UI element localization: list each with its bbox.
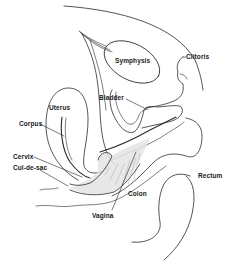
vaginal-shading	[70, 138, 150, 194]
perineum-skin	[40, 188, 58, 190]
leader-corpus	[40, 124, 64, 136]
label-colon: Colon	[128, 191, 147, 198]
label-cervix: Cervix	[13, 154, 33, 161]
label-symphysis: Symphysis	[115, 58, 150, 65]
ligament-fan	[79, 31, 112, 52]
clitoris-outline	[146, 57, 183, 108]
leader-cul-de-sac	[40, 170, 68, 186]
clitoris-detail	[180, 74, 187, 79]
diagram-drawing	[0, 0, 243, 266]
label-vagina: Vagina	[92, 213, 114, 220]
leader-bladder	[126, 99, 146, 109]
label-corpus: Corpus	[19, 121, 42, 128]
label-clitoris: Clitoris	[186, 54, 209, 61]
abdominal-wall-outline	[64, 6, 203, 90]
rectum-outline	[132, 174, 194, 260]
label-uterus: Uterus	[49, 105, 70, 112]
label-rectum: Rectum	[198, 173, 222, 180]
label-bladder: Bladder	[99, 95, 124, 102]
pelvic-anatomy-diagram: Symphysis Clitoris Bladder Uterus Corpus…	[0, 0, 243, 266]
label-cul-de-sac: Cul-de-sac	[13, 165, 47, 172]
